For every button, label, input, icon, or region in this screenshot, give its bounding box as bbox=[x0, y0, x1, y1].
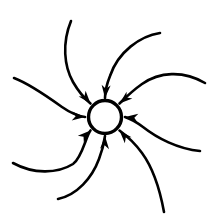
background-rect bbox=[0, 0, 212, 217]
spiral-arrows-diagram bbox=[0, 0, 212, 217]
figure-canvas: Converging spiral arrows Eight curved ar… bbox=[0, 0, 212, 217]
